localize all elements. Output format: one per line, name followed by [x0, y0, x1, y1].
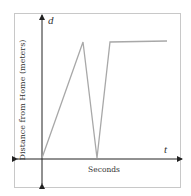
y-axis-variable: d	[48, 14, 54, 26]
y-axis-label: Distance from Home (meters)	[18, 40, 27, 161]
distance-time-chart: d t Distance from Home (meters) Seconds	[0, 0, 191, 196]
x-axis-variable: t	[164, 143, 167, 155]
x-axis-label: Seconds	[88, 165, 120, 174]
distance-line	[42, 41, 167, 158]
